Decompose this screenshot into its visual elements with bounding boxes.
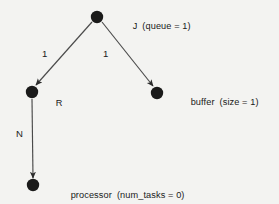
node-attribute-buffer: (size = 1) xyxy=(220,97,259,107)
edge-r-to-processor xyxy=(32,99,33,178)
node-name-processor: processor xyxy=(71,190,112,200)
node-r xyxy=(26,86,38,98)
node-name-buffer: buffer xyxy=(191,97,215,107)
node-label-j: J(queue = 1) xyxy=(122,13,191,41)
node-name-j: J xyxy=(133,21,138,31)
edge-label-j-to-buffer: 1 xyxy=(103,49,108,59)
node-processor xyxy=(27,179,39,191)
node-name-r: R xyxy=(56,98,63,108)
node-j xyxy=(91,11,103,23)
edge-label-j-to-r: 1 xyxy=(42,49,47,59)
node-attribute-j: (queue = 1) xyxy=(142,21,190,31)
graph-diagram-canvas: J(queue = 1) R buffer(size = 1) processo… xyxy=(0,0,279,204)
node-label-r: R xyxy=(45,90,67,118)
node-label-processor: processor(num_tasks = 0) xyxy=(60,182,185,204)
node-label-buffer: buffer(size = 1) xyxy=(180,89,259,117)
node-attribute-processor: (num_tasks = 0) xyxy=(117,190,185,200)
node-buffer xyxy=(151,87,163,99)
edge-label-r-to-processor: N xyxy=(16,129,23,139)
